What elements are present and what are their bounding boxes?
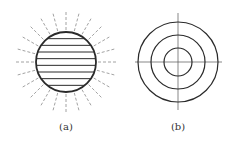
outline-circle xyxy=(36,32,96,92)
radial-ray xyxy=(53,12,58,31)
radial-ray xyxy=(94,36,111,46)
radial-ray xyxy=(29,25,43,39)
radial-ray xyxy=(74,93,79,112)
radial-ray xyxy=(82,17,92,34)
radial-ray xyxy=(29,85,43,99)
radial-ray xyxy=(16,70,35,75)
radial-ray xyxy=(89,85,103,99)
radial-ray xyxy=(94,78,111,88)
radial-ray xyxy=(74,12,79,31)
radial-ray xyxy=(16,49,35,54)
radial-ray xyxy=(89,25,103,39)
radial-ray xyxy=(97,70,116,75)
radial-ray xyxy=(82,90,92,107)
radial-ray xyxy=(21,78,38,88)
radial-ray xyxy=(97,49,116,54)
panel-b-concentric-circles xyxy=(135,13,222,110)
panel-a-label: (a) xyxy=(59,121,73,132)
radial-ray xyxy=(40,17,50,34)
panel-a-hatched-circle xyxy=(14,10,118,114)
radial-ray xyxy=(53,93,58,112)
radial-ray xyxy=(40,90,50,107)
panel-b-label: (b) xyxy=(171,121,185,132)
diagram-canvas xyxy=(0,0,231,150)
radial-ray xyxy=(21,36,38,46)
